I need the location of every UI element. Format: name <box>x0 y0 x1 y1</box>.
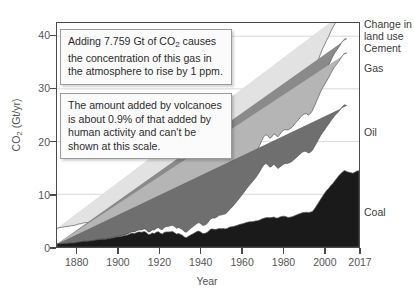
x-tick-mark-1920 <box>159 248 160 254</box>
annotation-ppm: Adding 7.759 Gt of CO2 causesthe concent… <box>60 29 232 85</box>
x-tick-mark-1980 <box>283 248 284 254</box>
annotation-volcano-line1: The amount added by volcanoes <box>68 99 222 111</box>
x-tick-label-1980: 1980 <box>272 256 295 268</box>
x-axis-title: Year <box>0 275 414 287</box>
x-tick-label-1960: 1960 <box>230 256 253 268</box>
series-label-oil: Oil <box>364 127 377 139</box>
x-tick-mark-1880 <box>76 248 77 254</box>
x-tick-label-1920: 1920 <box>148 256 171 268</box>
x-tick-mark-2000 <box>324 248 325 254</box>
annotation-volcano-line2: is about 0.9% of that added by <box>68 113 211 125</box>
x-tick-label-1900: 1900 <box>106 256 129 268</box>
x-tick-mark-2017 <box>359 248 360 254</box>
series-label-gas: Gas <box>364 63 383 75</box>
annotation-ppm-line3: the atmosphere to rise by 1 ppm. <box>68 65 223 77</box>
annotation-volcano-line3: human activity and can't be <box>68 126 196 138</box>
x-tick-label-2017: 2017 <box>348 256 371 268</box>
x-tick-mark-1960 <box>241 248 242 254</box>
x-tick-label-2000: 2000 <box>313 256 336 268</box>
x-tick-label-1880: 1880 <box>65 256 88 268</box>
series-label-coal: Coal <box>364 207 386 219</box>
series-label-land-use: Change inland use <box>364 19 412 42</box>
annotation-volcano: The amount added by volcanoesis about 0.… <box>60 93 232 159</box>
x-tick-mark-1900 <box>117 248 118 254</box>
series-label-cement: Cement <box>364 43 401 55</box>
series-label-land-use-line2: land use <box>364 30 404 42</box>
x-tick-mark-1940 <box>200 248 201 254</box>
annotation-volcano-line4: shown at this scale. <box>68 140 160 152</box>
annotation-ppm-line2: the concentration of this gas in <box>68 52 212 64</box>
annotation-ppm-line1a: Adding 7.759 Gt of CO <box>68 35 175 47</box>
x-tick-label-1940: 1940 <box>189 256 212 268</box>
series-label-land-use-line1: Change in <box>364 18 412 30</box>
co2-emissions-chart: 010203040 CO2 (Gt/yr) 188019001920194019… <box>0 0 414 294</box>
annotation-ppm-line1b: causes <box>180 35 217 47</box>
